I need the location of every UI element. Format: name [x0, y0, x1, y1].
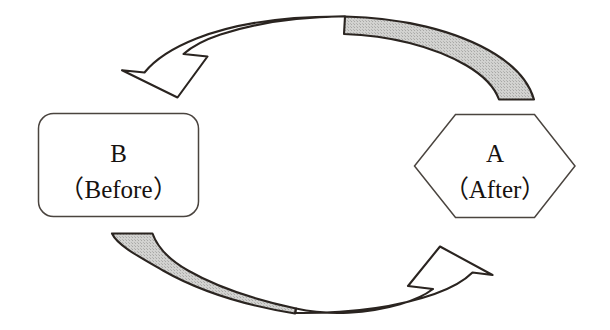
- arrow-bottom: [112, 234, 493, 314]
- arrow-top-body: [122, 16, 345, 97]
- node-a[interactable]: A （After）: [415, 115, 576, 218]
- arrow-top: [122, 16, 534, 99]
- node-b-label-sub: （Before）: [59, 176, 177, 203]
- node-b[interactable]: B （Before）: [39, 114, 199, 217]
- cycle-diagram-canvas: B （Before） A （After）: [0, 0, 610, 330]
- node-a-label-main: A: [486, 140, 504, 167]
- arrow-bottom-tail-shaded: [112, 234, 296, 314]
- arrow-bottom-body: [296, 247, 493, 314]
- node-b-label-main: B: [110, 140, 127, 167]
- node-a-label-sub: （After）: [444, 176, 547, 203]
- cycle-diagram-graphic: B （Before） A （After）: [0, 0, 610, 330]
- arrow-top-tail-shaded: [344, 17, 534, 100]
